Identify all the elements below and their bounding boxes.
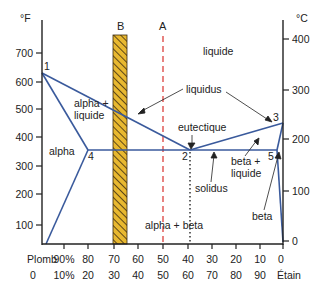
bottom-row1-label: 30 [206,253,218,265]
left-tick-label: 400 [15,131,33,143]
annotation-liquidus: liquidus [186,83,222,95]
region-beta: beta [252,210,273,222]
region-alpha-liquid-2: liquide [74,109,105,121]
solidus-arrowhead [211,152,217,158]
left-tick-label: 700 [15,47,33,59]
left-tick-label: 100 [15,219,33,231]
solvus-beta [277,150,283,242]
liquidus-arrow-left [140,89,183,112]
point-4-label: 4 [88,150,94,162]
annotation-eutectic: eutectique [178,121,227,133]
right-ticks: 4003002001000 [283,33,310,247]
bottom-row1-label: 60 [132,253,144,265]
point-2-label: 2 [182,150,188,162]
right-unit-label: °C [296,12,308,24]
point-3-label: 3 [273,111,279,123]
bottom-row1-label: 50 [157,253,169,265]
annotation-solidus: solidus [195,182,228,194]
bottom-row2-label: 30 [108,269,120,281]
bottom-row2-label: 90 [254,269,266,281]
left-ticks: 700600500400300200100 [15,47,42,231]
beta-arrow [264,156,278,210]
bottom-row2-label: 40 [132,269,144,281]
bottom-row2-label: 20 [82,269,94,281]
bottom-row2-label: 70 [206,269,218,281]
solidus-arrow [211,155,214,182]
left-tick-label: 200 [15,188,33,200]
alloy-bar-b [113,35,127,244]
left-tick-label: 500 [15,103,33,115]
solidus-beta [277,123,283,150]
right-tick-label: 0 [292,235,298,247]
bottom-row2-label: 10% [53,269,74,281]
bar-b-label: B [117,20,124,32]
beta-liquid-arrowhead [254,138,259,145]
beta-arrowhead [275,152,281,159]
point-5-label: 5 [268,150,274,162]
region-alpha-beta: alpha + beta [145,219,203,231]
line-a-label: A [159,20,167,32]
region-beta-liquid-2: liquide [231,167,262,179]
phase-diagram: B A 700600500400300200100 4003002001000 … [0,0,324,292]
bottom-row1-label: 90% [53,253,74,265]
right-tick-label: 300 [292,84,310,96]
point-1-label: 1 [44,60,50,72]
bottom-row2-label: 80 [230,269,242,281]
bottom-row2-label: 50 [157,269,169,281]
bottom-row2-label: 60 [182,269,194,281]
left-unit-label: °F [20,12,31,24]
liquidus-arrow-right [226,92,270,121]
bottom-ticks: Plomb90%80706050403020100010%20304050607… [27,244,301,281]
right-tick-label: 400 [292,33,310,45]
right-tick-label: 100 [292,185,310,197]
left-tick-label: 300 [15,160,33,172]
region-liquid: liquide [203,45,234,57]
bottom-row1-label: 40 [182,253,194,265]
bottom-row1-label: 20 [230,253,242,265]
liquidus-arrowhead-left [138,108,145,114]
bottom-row1-label: 70 [108,253,120,265]
right-tick-label: 200 [292,133,310,145]
bottom-row1-label: 80 [82,253,94,265]
liquidus-arrowhead-right [265,116,272,122]
bottom-row2-label: Étain [277,269,301,281]
region-alpha: alpha [49,145,75,157]
bottom-row1-label: 10 [254,253,266,265]
bottom-row2-label: 0 [30,269,36,281]
region-alpha-liquid-1: alpha + [74,97,109,109]
left-tick-label: 600 [15,76,33,88]
solvus-alpha [46,150,88,244]
region-beta-liquid-1: beta + [231,155,261,167]
bottom-row1-label: 0 [278,253,284,265]
